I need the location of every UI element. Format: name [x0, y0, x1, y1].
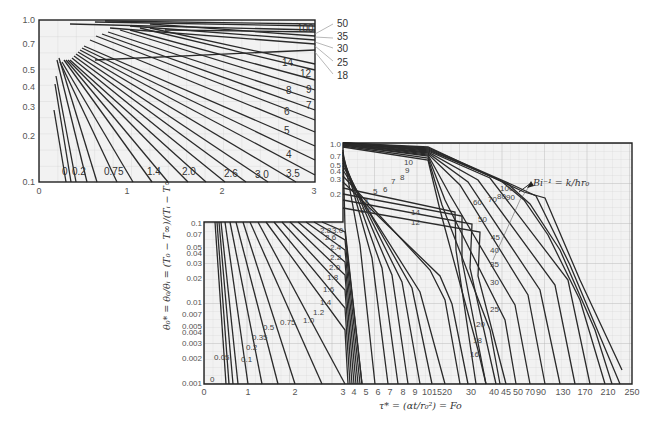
svg-text:10: 10: [422, 387, 432, 397]
svg-text:170: 170: [577, 387, 592, 397]
svg-text:0.5: 0.5: [263, 323, 275, 332]
svg-text:70: 70: [525, 387, 535, 397]
bi-annotation: Bi⁻¹ = k/hr₀: [532, 177, 589, 188]
svg-text:35: 35: [337, 31, 349, 42]
svg-text:90: 90: [536, 387, 546, 397]
inset-chart-y-ticks: 1.0 0.7 0.5 0.4 0.3 0.2 0.1: [22, 15, 35, 187]
svg-text:18: 18: [473, 336, 482, 345]
svg-text:0.3: 0.3: [22, 102, 35, 112]
svg-text:18: 18: [337, 70, 349, 81]
svg-text:0.2: 0.2: [246, 343, 258, 352]
svg-text:3: 3: [311, 186, 316, 196]
svg-text:5: 5: [363, 387, 368, 397]
svg-text:2.6: 2.6: [224, 168, 238, 179]
svg-text:0.001: 0.001: [182, 379, 203, 388]
svg-text:0: 0: [36, 186, 41, 196]
svg-text:1.0: 1.0: [303, 316, 315, 325]
svg-text:6: 6: [383, 185, 388, 194]
svg-text:0.03: 0.03: [186, 259, 202, 268]
svg-text:14: 14: [282, 57, 294, 68]
svg-text:9: 9: [412, 387, 417, 397]
svg-text:0.007: 0.007: [182, 310, 203, 319]
svg-text:15: 15: [432, 387, 442, 397]
svg-text:100: 100: [500, 184, 514, 193]
svg-text:0.01: 0.01: [186, 298, 202, 307]
svg-text:130: 130: [555, 387, 570, 397]
main-chart-y-axis-label: θ₀* = θ₀/θᵢ = (T₀ − T∞)/(Tᵢ − T∞): [161, 174, 172, 330]
svg-text:1.0: 1.0: [22, 15, 35, 25]
svg-text:7: 7: [306, 100, 312, 111]
svg-text:5: 5: [284, 125, 290, 136]
svg-text:30: 30: [337, 43, 349, 54]
svg-text:0.04: 0.04: [186, 249, 202, 258]
svg-text:50: 50: [337, 18, 349, 29]
svg-text:0.02: 0.02: [186, 274, 202, 283]
svg-text:30: 30: [490, 278, 499, 287]
svg-text:90: 90: [506, 193, 515, 202]
svg-text:100: 100: [297, 23, 314, 34]
svg-text:8: 8: [286, 85, 292, 96]
svg-text:20: 20: [442, 387, 452, 397]
svg-text:210: 210: [600, 387, 615, 397]
svg-text:1.8: 1.8: [327, 273, 339, 282]
svg-text:2.4: 2.4: [330, 243, 342, 252]
svg-text:35: 35: [490, 260, 499, 269]
svg-text:0.5: 0.5: [22, 65, 35, 75]
svg-text:0.003: 0.003: [182, 339, 203, 348]
svg-text:3.5: 3.5: [360, 206, 372, 215]
svg-text:4: 4: [364, 197, 369, 206]
svg-text:0.07: 0.07: [186, 230, 202, 239]
svg-text:1.4: 1.4: [147, 166, 161, 177]
svg-text:7: 7: [391, 177, 396, 186]
svg-text:0.7: 0.7: [330, 152, 342, 161]
svg-text:3.0: 3.0: [332, 226, 344, 235]
svg-text:14: 14: [411, 208, 420, 217]
heisler-chart-figure: 0 0.05 0.1 0.2 0.35 0.5 0.75 1.0 1.2 1.4…: [0, 0, 656, 423]
svg-text:2: 2: [219, 186, 224, 196]
svg-text:0.75: 0.75: [280, 318, 296, 327]
svg-text:60: 60: [473, 198, 482, 207]
svg-text:250: 250: [624, 387, 639, 397]
svg-text:3.5: 3.5: [286, 168, 300, 179]
svg-text:0.35: 0.35: [252, 333, 268, 342]
svg-text:16: 16: [470, 350, 479, 359]
svg-text:0: 0: [201, 387, 206, 397]
main-chart-x-axis-label: τ* = (αt/r₀²) = Fo: [379, 400, 462, 411]
svg-text:1.2: 1.2: [313, 308, 325, 317]
svg-text:0.1: 0.1: [191, 219, 203, 228]
svg-text:9: 9: [405, 166, 410, 175]
svg-text:25: 25: [337, 57, 349, 68]
svg-text:0.75: 0.75: [104, 166, 124, 177]
svg-text:4: 4: [286, 149, 292, 160]
svg-text:2.8: 2.8: [320, 226, 332, 235]
svg-text:9: 9: [306, 84, 312, 95]
svg-text:12: 12: [411, 218, 420, 227]
svg-text:0.05: 0.05: [214, 353, 230, 362]
svg-text:3.0: 3.0: [255, 169, 269, 180]
svg-text:8: 8: [400, 387, 405, 397]
svg-text:0.002: 0.002: [182, 354, 203, 363]
svg-text:0.1: 0.1: [22, 177, 35, 187]
svg-text:40: 40: [490, 246, 499, 255]
svg-text:4: 4: [351, 387, 356, 397]
svg-text:0.1: 0.1: [241, 355, 253, 364]
svg-text:3: 3: [340, 387, 345, 397]
svg-text:0.4: 0.4: [22, 82, 35, 92]
svg-text:1: 1: [245, 387, 250, 397]
svg-text:40: 40: [489, 387, 499, 397]
inset-chart: 0 0.2 0.75 1.4 2.0 2.6 3.0 3.5 4 5 6 7 8…: [22, 15, 348, 196]
svg-text:1.4: 1.4: [320, 298, 332, 307]
svg-text:0.004: 0.004: [182, 328, 203, 337]
svg-text:0.3: 0.3: [330, 175, 342, 184]
svg-text:6: 6: [284, 106, 290, 117]
svg-text:50: 50: [478, 215, 487, 224]
svg-text:50: 50: [513, 387, 523, 397]
inset-chart-x-ticks: 0 1 2 3: [36, 186, 316, 196]
svg-text:12: 12: [300, 68, 312, 79]
svg-text:1.0: 1.0: [330, 140, 342, 149]
svg-text:0.2: 0.2: [72, 166, 86, 177]
svg-text:0: 0: [210, 375, 215, 384]
svg-text:25: 25: [490, 305, 499, 314]
svg-text:5: 5: [373, 187, 378, 196]
svg-text:30: 30: [466, 387, 476, 397]
